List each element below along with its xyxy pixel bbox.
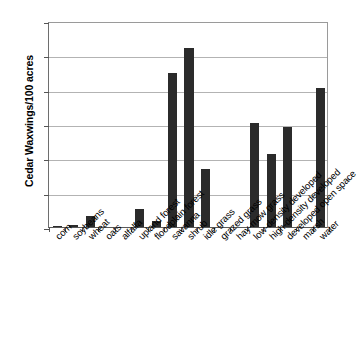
x-tick-mark [148, 227, 149, 232]
y-tick-mark [44, 57, 49, 58]
x-tick-mark [296, 227, 297, 232]
y-tick-mark [44, 160, 49, 161]
bar [69, 225, 78, 227]
x-tick-mark [197, 227, 198, 232]
bar [53, 226, 62, 227]
y-axis-title: Cedar Waxwings/100 acres [23, 26, 35, 216]
bar [168, 73, 177, 228]
x-tick-mark [49, 227, 50, 232]
x-tick-mark [329, 227, 330, 232]
x-tick-mark [214, 227, 215, 232]
bar [135, 209, 144, 227]
bar [86, 216, 95, 227]
x-tick-mark [131, 227, 132, 232]
x-tick-mark [263, 227, 264, 232]
bar [283, 127, 292, 227]
x-tick-mark [181, 227, 182, 232]
x-tick-mark [82, 227, 83, 232]
y-tick-mark [44, 23, 49, 24]
x-tick-mark [65, 227, 66, 232]
x-tick-mark [230, 227, 231, 232]
x-tick-mark [280, 227, 281, 232]
x-tick-mark [115, 227, 116, 232]
y-tick-mark [44, 92, 49, 93]
bar [267, 154, 276, 227]
x-tick-mark [164, 227, 165, 232]
bar [201, 169, 210, 227]
x-tick-mark [98, 227, 99, 232]
bar [152, 221, 161, 227]
bar [316, 88, 325, 227]
y-tick-mark [44, 195, 49, 196]
plot-area: 051015202530 [48, 22, 328, 228]
bar [184, 48, 193, 227]
x-tick-mark [247, 227, 248, 232]
y-tick-mark [44, 126, 49, 127]
x-tick-mark [313, 227, 314, 232]
bar [250, 123, 259, 227]
